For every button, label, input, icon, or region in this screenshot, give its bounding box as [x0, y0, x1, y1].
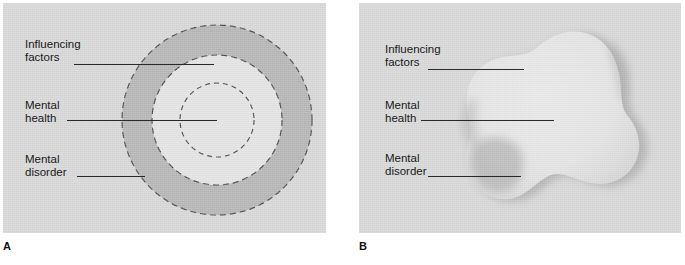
panel-a-label-mental-disorder: Mental disorder [25, 153, 67, 179]
panel-a-label-influencing-factors-line1: Influencing [25, 38, 81, 51]
panel-b-letter: B [359, 240, 367, 252]
panel-b-label-influencing-factors: Influencing factors [385, 43, 441, 69]
panel-b-leader-mental-disorder [428, 176, 521, 177]
panel-a-label-mental-disorder-line2: disorder [25, 166, 67, 179]
panel-a-label-influencing-factors-line2: factors [25, 51, 81, 64]
panel-b-label-mental-health-line1: Mental [385, 99, 420, 112]
panel-a-label-mental-health: Mental health [25, 99, 60, 125]
panel-a-label-influencing-factors: Influencing factors [25, 38, 81, 64]
panel-a-letter: A [3, 240, 11, 252]
panel-a-label-mental-health-line2: health [25, 112, 60, 125]
panel-b-leader-influencing-factors [428, 69, 524, 70]
panel-b-label-mental-disorder-line2: disorder [385, 165, 427, 178]
panel-b-label-mental-health-line2: health [385, 112, 420, 125]
panel-b-label-mental-disorder-line1: Mental [385, 152, 427, 165]
panel-b-label-influencing-factors-line2: factors [385, 56, 441, 69]
panel-a-leader-mental-disorder [77, 176, 145, 177]
figure-container: Influencing factors Mental health Mental… [0, 0, 685, 265]
panel-b-label-influencing-factors-line1: Influencing [385, 43, 441, 56]
panel-a-label-mental-health-line1: Mental [25, 99, 60, 112]
panel-a-leader-influencing-factors [74, 64, 214, 65]
panel-a-label-mental-disorder-line1: Mental [25, 153, 67, 166]
panel-b-label-mental-health: Mental health [385, 99, 420, 125]
panel-b-leader-mental-health [421, 120, 554, 121]
panel-b-label-mental-disorder: Mental disorder [385, 152, 427, 178]
panel-a-leader-mental-health [67, 120, 217, 121]
